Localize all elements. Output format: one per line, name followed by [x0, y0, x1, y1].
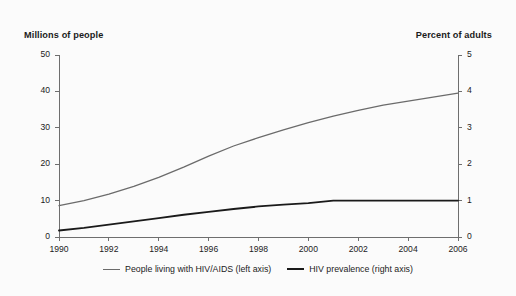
left-axis-tick-label: 50	[19, 49, 50, 59]
axes-group	[55, 55, 462, 241]
left-axis-tick-label: 0	[19, 231, 50, 241]
series-group	[59, 93, 458, 230]
x-axis-tick-label: 1996	[187, 244, 231, 254]
right-axis-tick-label: 2	[467, 158, 497, 168]
right-axis-tick-label: 1	[467, 195, 497, 205]
x-axis-tick-label: 2004	[386, 244, 430, 254]
chart-legend: People living with HIV/AIDS (left axis)H…	[0, 264, 516, 274]
legend-item[interactable]: People living with HIV/AIDS (left axis)	[103, 264, 271, 274]
right-axis-tick-label: 5	[467, 49, 497, 59]
series-line-2	[59, 201, 458, 231]
left-axis-tick-label: 20	[19, 158, 50, 168]
right-axis-tick-label: 4	[467, 85, 497, 95]
left-axis-tick-label: 30	[19, 122, 50, 132]
x-axis-tick-label: 1994	[137, 244, 181, 254]
left-axis-tick-label: 10	[19, 195, 50, 205]
legend-item-label: HIV prevalence (right axis)	[309, 264, 413, 274]
x-axis-tick-label: 2000	[286, 244, 330, 254]
chart-container: Millions of people Percent of adults 010…	[0, 0, 516, 296]
legend-item[interactable]: HIV prevalence (right axis)	[287, 264, 413, 274]
x-axis-tick-label: 2006	[436, 244, 480, 254]
x-axis-tick-label: 1992	[87, 244, 131, 254]
right-axis-tick-label: 3	[467, 122, 497, 132]
left-axis-tick-label: 40	[19, 85, 50, 95]
right-axis-tick-label: 0	[467, 231, 497, 241]
x-axis-tick-label: 1998	[237, 244, 281, 254]
x-axis-tick-label: 2002	[336, 244, 380, 254]
legend-item-label: People living with HIV/AIDS (left axis)	[125, 264, 271, 274]
line-swatch-grey-icon	[103, 269, 120, 270]
line-swatch-black-icon	[287, 268, 304, 270]
series-line-1	[59, 93, 458, 205]
x-axis-tick-label: 1990	[37, 244, 81, 254]
